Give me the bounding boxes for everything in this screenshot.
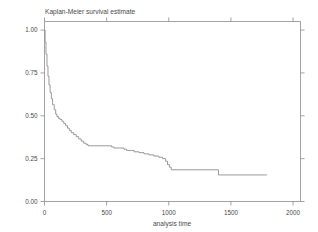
y-axis-tick-labels: 0.000.250.500.751.00 <box>25 26 38 204</box>
kaplan-meier-plot: Kaplan-Meier survival estimate 050010001… <box>0 0 318 232</box>
y-tick-label: 0.50 <box>25 112 38 119</box>
chart-title: Kaplan-Meier survival estimate <box>45 8 135 16</box>
y-tick-label: 0.75 <box>25 69 38 76</box>
y-tick-label: 1.00 <box>25 26 38 33</box>
x-tick-label: 1000 <box>162 209 177 216</box>
y-axis-ticks <box>41 30 45 201</box>
survival-curve <box>45 30 267 175</box>
x-axis-title: analysis time <box>153 220 191 228</box>
x-axis-ticks <box>45 202 294 206</box>
x-tick-label: 0 <box>43 209 47 216</box>
x-axis-ticks-top <box>45 18 294 22</box>
y-tick-label: 0.00 <box>25 198 38 205</box>
x-tick-label: 500 <box>101 209 112 216</box>
y-tick-label: 0.25 <box>25 155 38 162</box>
x-tick-label: 1500 <box>224 209 239 216</box>
x-axis-tick-labels: 0500100015002000 <box>43 209 301 216</box>
chart-container: Kaplan-Meier survival estimate 050010001… <box>0 0 318 232</box>
x-tick-label: 2000 <box>286 209 301 216</box>
y-axis-ticks-right <box>301 30 305 201</box>
